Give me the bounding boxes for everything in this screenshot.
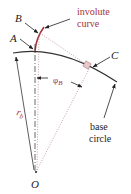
radius-line-oc [36,67,90,172]
label-b: B [15,12,22,24]
pointer-arrow-c [93,57,110,67]
label-a: A [9,32,17,44]
label-o: O [31,178,39,190]
label-c: C [111,49,119,61]
angle-arrow-right [71,82,82,87]
label-base-line2: circle [89,133,112,144]
involute-diagram: B A C O involute curve base circle rb φB [0,0,131,194]
label-angle-phi-b: φB [53,75,63,87]
label-involute-line1: involute [77,6,110,17]
tangent-line-bc [40,33,90,67]
right-angle-marker [83,61,91,69]
label-base-line1: base [90,121,108,132]
base-circle-arc [13,51,117,82]
pointer-arrow-a [20,39,33,49]
center-point-o [35,171,37,173]
dotted-line-b-vertical [37,34,39,172]
label-involute-line2: curve [77,18,100,29]
involute-curve [35,27,44,51]
pointer-arrow-base-circle [104,84,115,118]
pointer-arrow-b [25,23,38,33]
pointer-arrow-involute [45,19,70,28]
